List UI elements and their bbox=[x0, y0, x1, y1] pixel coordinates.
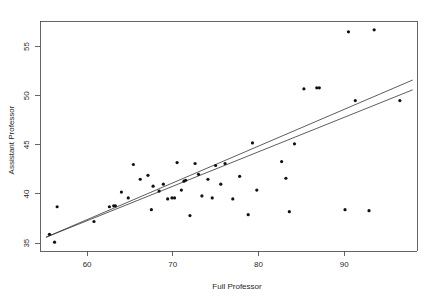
y-tick-label-50: 50 bbox=[22, 91, 31, 100]
x-axis: 60708090 bbox=[40, 251, 417, 269]
data-point bbox=[184, 179, 187, 182]
data-point bbox=[53, 241, 56, 244]
data-point bbox=[247, 213, 250, 216]
x-tick-label-90: 90 bbox=[340, 260, 349, 269]
data-point bbox=[193, 162, 196, 165]
data-point bbox=[231, 197, 234, 200]
data-points bbox=[48, 28, 402, 244]
x-axis-title: Full Professor bbox=[212, 282, 262, 291]
x-tick-label-80: 80 bbox=[254, 260, 263, 269]
scatter-plot-figure: 60708090 3540455055 Full Professor Assis… bbox=[0, 0, 434, 298]
data-point bbox=[284, 177, 287, 180]
data-point bbox=[150, 208, 153, 211]
data-point bbox=[173, 196, 176, 199]
x-tick-label-70: 70 bbox=[168, 260, 177, 269]
data-point bbox=[139, 178, 142, 181]
chart-canvas: 60708090 3540455055 Full Professor Assis… bbox=[0, 0, 434, 298]
y-tick-label-35: 35 bbox=[22, 238, 31, 247]
x-tick-label-60: 60 bbox=[83, 260, 92, 269]
regression-line-2 bbox=[46, 90, 413, 237]
data-point bbox=[108, 205, 111, 208]
data-point bbox=[180, 188, 183, 191]
regression-line-1 bbox=[46, 80, 413, 237]
data-point bbox=[354, 99, 357, 102]
regression-lines bbox=[46, 80, 413, 237]
data-point bbox=[206, 178, 209, 181]
data-point bbox=[92, 220, 95, 223]
data-point bbox=[152, 185, 155, 188]
data-point bbox=[166, 197, 169, 200]
data-point bbox=[56, 205, 59, 208]
data-point bbox=[398, 99, 401, 102]
data-point bbox=[318, 86, 321, 89]
data-point bbox=[373, 28, 376, 31]
data-point bbox=[280, 160, 283, 163]
data-point bbox=[120, 190, 123, 193]
data-point bbox=[48, 233, 51, 236]
y-tick-label-45: 45 bbox=[22, 140, 31, 149]
data-point bbox=[114, 204, 117, 207]
data-point bbox=[132, 163, 135, 166]
data-point bbox=[127, 196, 130, 199]
y-axis: 3540455055 bbox=[22, 21, 40, 251]
y-axis-title: Assistant Professor bbox=[7, 105, 16, 174]
data-point bbox=[367, 209, 370, 212]
data-point bbox=[238, 175, 241, 178]
data-point bbox=[288, 210, 291, 213]
data-point bbox=[200, 194, 203, 197]
y-tick-label-55: 55 bbox=[22, 42, 31, 51]
data-point bbox=[188, 214, 191, 217]
data-point bbox=[302, 87, 305, 90]
data-point bbox=[197, 173, 200, 176]
data-point bbox=[162, 183, 165, 186]
data-point bbox=[175, 161, 178, 164]
data-point bbox=[219, 183, 222, 186]
data-point bbox=[293, 142, 296, 145]
data-point bbox=[146, 174, 149, 177]
data-point bbox=[214, 164, 217, 167]
data-point bbox=[347, 30, 350, 33]
data-point bbox=[343, 208, 346, 211]
data-point bbox=[211, 196, 214, 199]
data-point bbox=[157, 189, 160, 192]
y-tick-label-40: 40 bbox=[22, 189, 31, 198]
data-point bbox=[255, 188, 258, 191]
data-point bbox=[251, 141, 254, 144]
data-point bbox=[223, 162, 226, 165]
